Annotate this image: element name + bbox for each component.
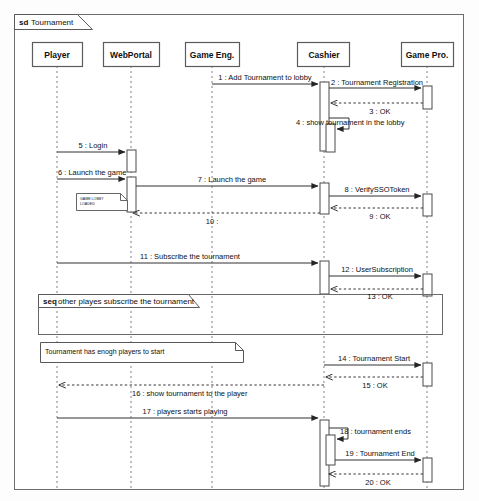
- lifeline-label-player: Player: [44, 50, 70, 60]
- lifeline-head-webportal[interactable]: WebPortal: [104, 43, 160, 67]
- message-label: 16 : show tournament to the player: [132, 389, 248, 398]
- fragment-keyword: seq: [43, 297, 57, 306]
- sequence-diagram-canvas: sd Tournament Player WebPortal Game Eng.…: [0, 0, 479, 501]
- lifeline-label-gamepro: Game Pro.: [406, 50, 449, 60]
- message-label: 5 : Login: [79, 141, 108, 150]
- activation-bar: [423, 274, 432, 296]
- message-2[interactable]: 2 : Tournament Registration: [329, 78, 423, 88]
- lifeline-head-cashier[interactable]: Cashier: [298, 43, 350, 67]
- message-label: 17 : players starts playing: [142, 407, 227, 416]
- activation-bar: [320, 183, 329, 214]
- activation-bar: [326, 124, 335, 152]
- message-label: 8 : VerifySSOToken: [344, 185, 409, 194]
- activation-bar: [423, 86, 432, 109]
- note-line: Tournament has enogh players to start: [45, 348, 165, 356]
- lifeline-label-gameeng: Game Eng.: [190, 50, 234, 60]
- message-label: 2 : Tournament Registration: [331, 78, 423, 87]
- note-enough-players: Tournament has enogh players to start: [41, 343, 244, 363]
- message-label: 19 : Tournament End: [345, 449, 415, 458]
- lifeline-head-gamepro[interactable]: Game Pro.: [402, 43, 454, 67]
- message-label: 1 : Add Tournament to lobby: [218, 73, 312, 82]
- frame-name: Tournament: [31, 18, 74, 27]
- message-label: 14 : Tournament Start: [338, 354, 411, 363]
- activation-bar: [423, 194, 432, 216]
- activation-bar: [423, 458, 432, 482]
- lifeline-label-cashier: Cashier: [308, 50, 340, 60]
- message-label: 4 : show tournament in the lobby: [296, 118, 405, 127]
- message-label: 7 : Launch the game: [198, 175, 266, 184]
- frame-keyword: sd: [19, 18, 28, 27]
- message-label: 10 :: [206, 217, 219, 226]
- lifeline-head-gameeng[interactable]: Game Eng.: [186, 43, 240, 67]
- fragment-name: other playes subscribe the tournament: [58, 297, 195, 306]
- activation-bar: [326, 435, 335, 465]
- message-label: 6 : Launch the game: [58, 168, 126, 177]
- message-label: 20 : OK: [365, 478, 390, 487]
- sequence-diagram-svg: sd Tournament Player WebPortal Game Eng.…: [0, 0, 479, 501]
- note-line: LOADED: [80, 202, 95, 206]
- lifeline-label-webportal: WebPortal: [110, 50, 152, 60]
- message-label: 18 : tournament ends: [340, 427, 411, 436]
- activation-bar: [320, 261, 329, 294]
- message-label: 3 : OK: [369, 107, 390, 116]
- note-line: GAME LOBBY: [80, 197, 104, 201]
- activation-bar: [423, 363, 432, 386]
- message-label: 12 : UserSubscription: [341, 265, 413, 274]
- lifeline-head-player[interactable]: Player: [33, 43, 83, 67]
- message-label: 13 : OK: [367, 292, 392, 301]
- message-label: 11 : Subscribe the tournament: [140, 252, 241, 261]
- activation-bar: [127, 177, 136, 212]
- message-label: 9 : OK: [369, 212, 390, 221]
- note-game-lobby: GAME LOBBY LOADED: [77, 194, 128, 211]
- message-label: 15 : OK: [362, 381, 387, 390]
- activation-bar: [127, 150, 136, 172]
